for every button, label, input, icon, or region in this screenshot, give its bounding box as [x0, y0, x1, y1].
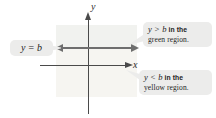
shaded-region-green — [56, 25, 137, 48]
callout-yellow-line-1-rest: in the — [163, 74, 184, 81]
coordinate-plane-figure: y x y = b y > b in the green region. y <… — [0, 0, 216, 118]
callout-green-region: y > b in the green region. — [143, 22, 212, 47]
x-axis — [40, 65, 127, 66]
y-axis-label: y — [91, 2, 95, 12]
x-axis-label: x — [133, 60, 137, 70]
callout-yellow-line-2: yellow region. — [144, 83, 207, 93]
shaded-region-yellow — [56, 48, 137, 97]
callout-green-line-1-rest: in the — [167, 26, 188, 33]
y-axis — [88, 18, 89, 114]
x-axis-arrow-icon — [125, 62, 133, 68]
callout-yellow-region: y < b in the yellow region. — [139, 70, 212, 95]
callout-yellow-line-1: y < b in the — [144, 73, 207, 83]
y-axis-arrow-icon — [85, 12, 91, 20]
callout-green-line-1: y > b in the — [148, 25, 207, 35]
callout-green-inequality: y > b — [148, 24, 167, 34]
boundary-arrow-right-icon — [131, 44, 139, 52]
callout-green-line-2: green region. — [148, 35, 207, 45]
callout-line-label: y = b — [10, 40, 53, 56]
boundary-line-y-equals-b — [62, 47, 132, 49]
callout-yellow-inequality: y < b — [144, 72, 163, 82]
